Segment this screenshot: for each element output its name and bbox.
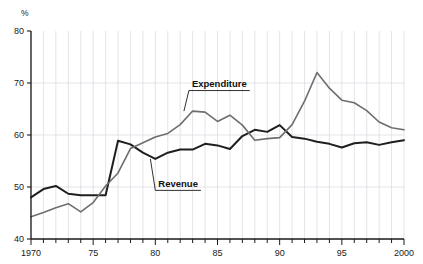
- chart-background: [0, 0, 423, 264]
- x-tick-label: 95: [337, 248, 347, 258]
- y-tick-label: 60: [14, 130, 24, 140]
- x-tick-label: 90: [275, 248, 285, 258]
- y-axis-unit-label: %: [21, 8, 29, 18]
- y-tick-label: 70: [14, 78, 24, 88]
- x-tick-label: 75: [88, 248, 98, 258]
- y-tick-label: 80: [14, 26, 24, 36]
- chart-container: 4050607080 197075808590952000 Expenditur…: [0, 0, 423, 264]
- x-tick-label: 1970: [21, 248, 41, 258]
- y-tick-label: 50: [14, 182, 24, 192]
- annotation-label: Expenditure: [192, 78, 247, 89]
- annotation-label: Revenue: [158, 178, 198, 189]
- line-chart: 4050607080 197075808590952000 Expenditur…: [0, 0, 423, 264]
- x-tick-label: 80: [150, 248, 160, 258]
- x-tick-label: 85: [212, 248, 222, 258]
- y-tick-label: 40: [14, 234, 24, 244]
- x-tick-label: 2000: [394, 248, 414, 258]
